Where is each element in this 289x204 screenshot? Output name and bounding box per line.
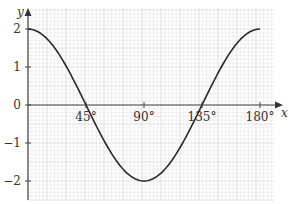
y-axis-arrow-icon: [25, 8, 32, 16]
x-tick-label: 135°: [188, 110, 217, 124]
y-axis-label: y: [16, 5, 24, 19]
y-tick-label: −1: [3, 136, 21, 150]
y-tick-label: 0: [13, 98, 21, 112]
y-tick-label: 2: [13, 22, 21, 36]
x-tick-label: 180°: [246, 110, 275, 124]
cosine-graph: 45°90°135°180°210−1−2 x y: [0, 0, 289, 204]
graph-paper-grid: [28, 8, 274, 200]
y-tick-label: −2: [3, 174, 21, 188]
x-tick-label: 90°: [133, 110, 154, 124]
x-axis-label: x: [281, 106, 288, 120]
y-tick-label: 1: [13, 60, 21, 74]
